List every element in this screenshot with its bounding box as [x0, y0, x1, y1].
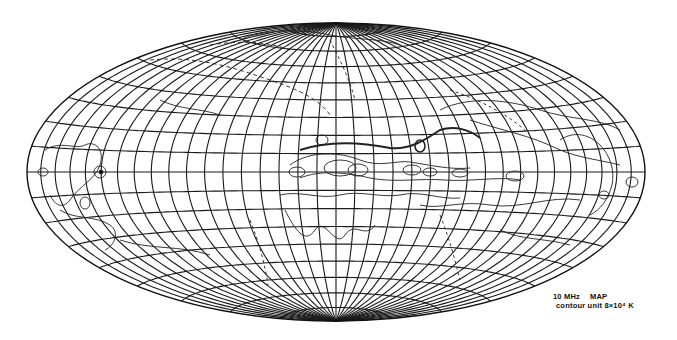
sky-map	[0, 0, 677, 340]
contour-lines	[38, 31, 638, 285]
coordinate-grid	[27, 23, 645, 321]
caption-frequency: 10 MHz	[553, 292, 580, 301]
caption-contour-unit: contour unit 8×10⁴ K	[553, 301, 634, 310]
caption-title-line: 10 MHzMAP	[553, 292, 634, 301]
caption-map-label: MAP	[590, 292, 607, 301]
map-caption: 10 MHzMAP contour unit 8×10⁴ K	[553, 292, 634, 310]
